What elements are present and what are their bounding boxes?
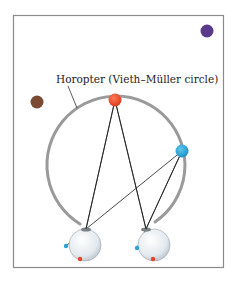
fixation-point-red <box>109 94 122 107</box>
point-purple <box>201 25 214 38</box>
point-brown <box>31 96 44 109</box>
left-retina-blue-image <box>64 244 68 248</box>
point-blue <box>176 145 189 158</box>
left-retina-red-image <box>78 257 82 261</box>
right-retina-blue-image <box>135 246 139 250</box>
horopter-label: Horopter (Vieth–Müller circle) <box>56 73 218 85</box>
right-retina-red-image <box>151 257 155 261</box>
horopter-diagram: Horopter (Vieth–Müller circle) <box>0 0 239 283</box>
diagram-frame <box>14 16 224 268</box>
